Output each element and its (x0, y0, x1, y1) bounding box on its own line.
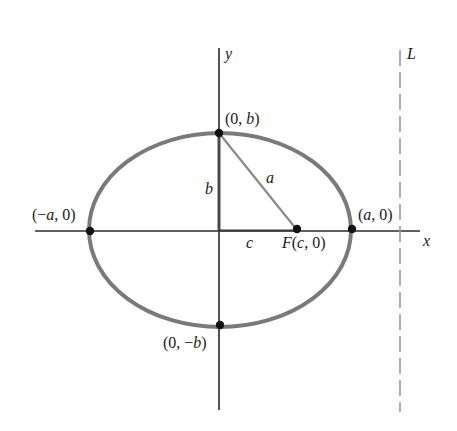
y-axis-label: y (223, 45, 233, 63)
segment-label-c: c (246, 234, 253, 251)
point-focus (293, 225, 301, 233)
x-axis-label: x (422, 232, 430, 249)
label-focus: F(c, 0) (281, 234, 326, 252)
point-left-vertex (86, 227, 94, 235)
point-bottom-vertex (216, 321, 224, 329)
label-left-vertex: (−a, 0) (32, 206, 76, 224)
label-bottom-vertex: (0, −b) (163, 334, 207, 352)
label-top-vertex: (0, b) (225, 110, 260, 128)
point-right-vertex (348, 225, 356, 233)
segment-label-b: b (205, 180, 213, 197)
directrix-label: L (406, 45, 416, 62)
segment-label-a: a (266, 169, 274, 186)
ellipse-diagram: y x L (0, b) (0, −b) (−a, 0) (a, 0) F(c,… (0, 0, 457, 431)
point-top-vertex (215, 129, 223, 137)
label-right-vertex: (a, 0) (358, 206, 393, 224)
